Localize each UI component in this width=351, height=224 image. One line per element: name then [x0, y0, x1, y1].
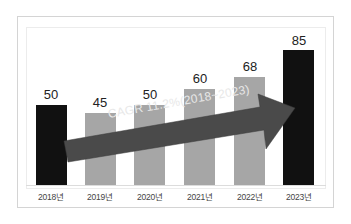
x-label-2020: 2020년 [128, 190, 172, 202]
x-label-2018: 2018년 [29, 190, 73, 202]
x-label-2021: 2021년 [178, 190, 222, 202]
x-label-2022: 2022년 [228, 190, 272, 202]
x-label-2019: 2019년 [78, 190, 122, 202]
x-label-2023: 2023년 [277, 190, 321, 202]
